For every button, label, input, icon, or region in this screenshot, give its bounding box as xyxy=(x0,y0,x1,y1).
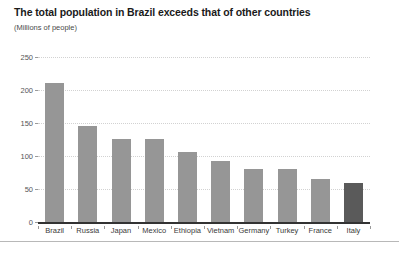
bar-italy xyxy=(344,183,363,222)
x-tick-mark xyxy=(337,226,338,229)
x-tick-label-brazil: Brazil xyxy=(38,226,71,235)
x-tick-mark xyxy=(237,226,238,229)
x-tick-mark xyxy=(370,226,371,229)
y-tick-label: 0 xyxy=(29,218,33,227)
bar-series xyxy=(38,57,370,222)
x-tick-label-mexico: Mexico xyxy=(138,226,171,235)
chart-figure: The total population in Brazil exceeds t… xyxy=(0,0,399,253)
bar-slot xyxy=(171,57,204,222)
bar-slot xyxy=(38,57,71,222)
x-tick-mark xyxy=(270,226,271,229)
bar-vietnam xyxy=(211,161,230,222)
x-tick-mark xyxy=(171,226,172,229)
x-tick-mark xyxy=(204,226,205,229)
x-tick-label-vietnam: Vietnam xyxy=(204,226,237,235)
x-tick-label-italy: Italy xyxy=(337,226,370,235)
bar-slot xyxy=(237,57,270,222)
x-tick-label-russia: Russia xyxy=(71,226,104,235)
bar-turkey xyxy=(278,169,297,222)
bar-russia xyxy=(78,126,97,222)
y-tick-label: 150 xyxy=(20,119,33,128)
x-tick-label-france: France xyxy=(304,226,337,235)
y-tick-label: 50 xyxy=(25,185,33,194)
x-axis-line xyxy=(38,222,370,224)
bar-brazil xyxy=(45,83,64,222)
chart-subtitle: (Millions of people) xyxy=(14,23,77,32)
bar-slot xyxy=(337,57,370,222)
bar-germany xyxy=(244,169,263,222)
bar-france xyxy=(311,179,330,222)
x-axis-labels: BrazilRussiaJapanMexicoEthiopiaVietnamGe… xyxy=(38,226,370,235)
chart-title: The total population in Brazil exceeds t… xyxy=(14,6,311,18)
footer-divider xyxy=(0,241,399,242)
bar-slot xyxy=(104,57,137,222)
x-tick-mark xyxy=(138,226,139,229)
x-tick-label-turkey: Turkey xyxy=(270,226,303,235)
bar-mexico xyxy=(145,139,164,222)
plot-area: 050100150200250 xyxy=(38,57,370,222)
y-tick-label: 200 xyxy=(20,86,33,95)
x-tick-mark xyxy=(304,226,305,229)
x-tick-mark xyxy=(71,226,72,229)
bar-slot xyxy=(138,57,171,222)
y-tick-label: 100 xyxy=(20,152,33,161)
bar-slot xyxy=(204,57,237,222)
bar-japan xyxy=(112,139,131,222)
y-tick-label: 250 xyxy=(20,53,33,62)
x-tick-mark xyxy=(104,226,105,229)
x-tick-label-germany: Germany xyxy=(237,226,270,235)
bar-slot xyxy=(71,57,104,222)
bar-slot xyxy=(270,57,303,222)
bar-slot xyxy=(304,57,337,222)
x-tick-mark xyxy=(38,226,39,229)
bar-ethiopia xyxy=(178,152,197,222)
x-tick-label-ethiopia: Ethiopia xyxy=(171,226,204,235)
x-tick-label-japan: Japan xyxy=(104,226,137,235)
